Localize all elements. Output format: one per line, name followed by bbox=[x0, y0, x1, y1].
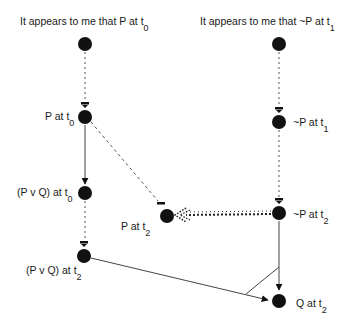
node-notp-t2 bbox=[272, 206, 286, 220]
bar-head-icon bbox=[82, 105, 88, 108]
bar-head-icon bbox=[81, 102, 89, 105]
bar-head-icon bbox=[157, 202, 165, 205]
label-appears-notp-t1: It appears to me that ~P at t1 bbox=[200, 15, 335, 28]
label-pvq-t2: (P v Q) at t2 bbox=[26, 264, 82, 277]
argument-diagram bbox=[0, 0, 348, 331]
node-pvq-t2 bbox=[77, 249, 91, 263]
label-p-t2: P at t2 bbox=[121, 220, 150, 233]
bar-head-icon bbox=[275, 198, 283, 201]
edge-pvq-t2-to-q-t2 bbox=[91, 258, 268, 300]
label-notp-t2: ~P at t2 bbox=[293, 208, 328, 221]
node-p-t0 bbox=[78, 110, 92, 124]
bar-head-icon bbox=[276, 201, 282, 204]
bar-head-icon bbox=[81, 244, 87, 247]
edge-notp-t2-to-p-t2 bbox=[175, 208, 271, 222]
label-pvq-t0: (P v Q) at t0 bbox=[17, 186, 73, 199]
label-appears-p-t0: It appears to me that P at t0 bbox=[20, 15, 149, 28]
label-notp-t1: ~P at t1 bbox=[293, 116, 328, 129]
label-p-t0: P at t0 bbox=[45, 110, 74, 123]
node-appears-p-t0 bbox=[78, 37, 92, 51]
conjunction-connector bbox=[246, 267, 279, 294]
label-q-t2: Q at t2 bbox=[296, 297, 327, 310]
node-appears-notp-t1 bbox=[272, 37, 286, 51]
node-notp-t1 bbox=[272, 115, 286, 129]
bar-head-icon bbox=[276, 110, 282, 113]
node-pvq-t0 bbox=[78, 186, 92, 200]
bar-head-icon bbox=[275, 107, 283, 110]
bar-head-icon bbox=[80, 241, 88, 244]
node-p-t2 bbox=[160, 209, 174, 223]
hollow-arrow-head-icon bbox=[175, 208, 186, 222]
node-q-t2 bbox=[272, 294, 286, 308]
edge-p-t0-to-p-t2 bbox=[91, 122, 158, 201]
